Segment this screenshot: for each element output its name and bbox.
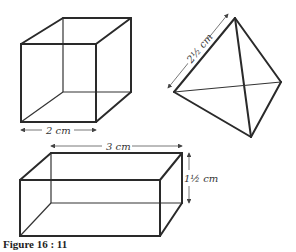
geometric-solids-diagram: 2 cm 2½ cm [0, 0, 296, 252]
figure-caption: Figure 16 : 11 [3, 238, 67, 250]
cube: 2 cm [21, 18, 131, 136]
cuboid-height-label: 1½ cm [184, 173, 218, 184]
cuboid-length-label: 3 cm [106, 141, 131, 152]
cube-dimension-label: 2 cm [45, 125, 71, 136]
cuboid: 3 cm 1½ cm [20, 140, 218, 236]
tetrahedron: 2½ cm [168, 14, 281, 137]
figure-16-11: 2 cm 2½ cm [0, 0, 296, 252]
